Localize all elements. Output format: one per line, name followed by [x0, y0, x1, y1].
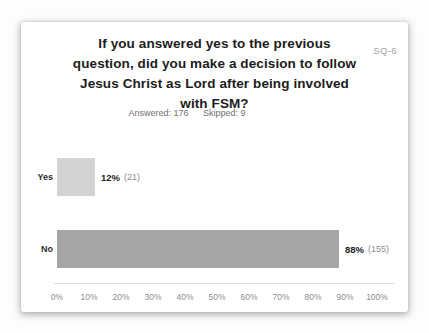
survey-slide-card: SQ-6 If you answered yes to the previous… [21, 22, 408, 312]
x-axis-tick: 90% [328, 292, 362, 302]
x-axis-tick: 60% [232, 292, 266, 302]
value-label-no: 88% (155) [345, 230, 389, 268]
percent-no: 88% [345, 244, 364, 255]
x-axis-tick: 10% [72, 292, 106, 302]
bar-chart: Yes 12% (21) No 88% (155) 0%10%20%30%40%… [21, 22, 408, 312]
x-axis-tick-labels: 0%10%20%30%40%50%60%70%80%90%100% [21, 292, 408, 304]
x-axis-tick: 40% [168, 292, 202, 302]
x-axis-tick: 20% [104, 292, 138, 302]
x-axis-tick: 80% [296, 292, 330, 302]
x-axis-tick: 30% [136, 292, 170, 302]
category-label-yes: Yes [27, 158, 53, 196]
percent-yes: 12% [101, 172, 120, 183]
count-no: (155) [368, 244, 389, 254]
count-yes: (21) [124, 172, 140, 182]
page-background: SQ-6 If you answered yes to the previous… [0, 0, 429, 333]
x-axis-tick: 0% [40, 292, 74, 302]
bar-yes [57, 158, 95, 196]
bar-no [57, 230, 339, 268]
category-label-no: No [27, 230, 53, 268]
x-axis-tick: 50% [200, 292, 234, 302]
x-axis-line [54, 283, 395, 284]
value-label-yes: 12% (21) [101, 158, 140, 196]
x-axis-tick: 70% [264, 292, 298, 302]
x-axis-tick: 100% [360, 292, 394, 302]
